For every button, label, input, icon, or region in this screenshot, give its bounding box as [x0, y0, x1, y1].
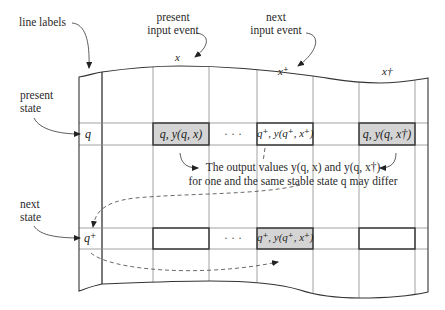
- row-label-q: q: [85, 127, 91, 142]
- next-state-line1: next: [20, 198, 41, 211]
- note-line2: for one and the same stable state q may …: [168, 174, 418, 188]
- present-state-annotation: present state: [20, 89, 53, 115]
- cell-present-x: q, y(q, x): [153, 127, 209, 142]
- cell-present-ellipsis: · · ·: [209, 127, 257, 142]
- cell-present-x-dagger: q, y(q, x†): [359, 127, 415, 142]
- output-values-note: The output values y(q, x) and y(q, x†) f…: [168, 160, 418, 188]
- cell-next-x-plus: q⁺, y(q⁺, x⁺): [257, 231, 313, 244]
- column-label-x: x: [175, 51, 180, 63]
- cell-next-ellipsis: · · ·: [209, 231, 257, 246]
- row-label-q-plus: q⁺: [84, 231, 96, 246]
- next-state-line2: state: [20, 211, 41, 224]
- present-state-line1: present: [20, 89, 53, 102]
- present-state-line2: state: [20, 102, 53, 115]
- note-line1: The output values y(q, x) and y(q, x†): [168, 160, 418, 174]
- next-state-annotation: next state: [20, 198, 41, 224]
- present-input-event-line1: present: [140, 11, 206, 24]
- next-input-event-line2: input event: [246, 24, 306, 37]
- next-input-event-line1: next: [246, 11, 306, 24]
- line-labels-annotation: line labels: [19, 16, 66, 29]
- present-input-event-annotation: present input event: [140, 11, 206, 37]
- column-label-x-dagger: x†: [382, 65, 392, 77]
- next-input-event-annotation: next input event: [246, 11, 306, 37]
- column-label-x-plus: x⁺: [278, 65, 289, 78]
- present-input-event-line2: input event: [140, 24, 206, 37]
- diagram-canvas: [0, 0, 445, 310]
- cell-present-x-plus: q⁺, y(q⁺, x⁺): [257, 127, 313, 140]
